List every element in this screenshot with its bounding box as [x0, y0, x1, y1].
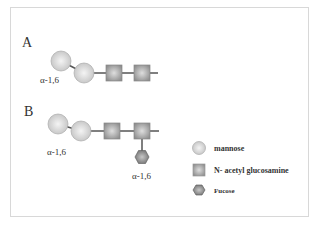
legend: mannose N- acetyl glucosamine Fucose [193, 142, 290, 196]
glcnac-icon [106, 65, 122, 81]
glcnac-icon [134, 65, 150, 81]
mannose-icon [51, 51, 71, 71]
glycan-diagram: A α-1,6 B α-1,6 α-1,6 mannose N- acetyl … [0, 0, 319, 228]
glcnac-icon [104, 123, 120, 139]
mannose-icon [74, 63, 94, 83]
legend-label: mannose [214, 144, 245, 153]
linkage-label: α-1,6 [132, 171, 151, 181]
glcnac-icon [134, 123, 150, 139]
linkage-label: α-1,6 [40, 75, 59, 85]
legend-label: N- acetyl glucosamine [214, 166, 289, 175]
glcnac-icon [193, 164, 205, 176]
panel-a: A α-1,6 [22, 35, 158, 85]
panel-b: B α-1,6 α-1,6 [24, 104, 159, 181]
mannose-icon [48, 114, 68, 134]
panel-b-label: B [24, 104, 33, 119]
panel-a-label: A [22, 35, 33, 50]
legend-label: Fucose [214, 187, 235, 195]
linkage-label: α-1,6 [47, 147, 66, 157]
fucose-icon [135, 151, 149, 164]
mannose-icon [193, 142, 206, 155]
mannose-icon [71, 121, 91, 141]
fucose-icon [193, 185, 205, 195]
